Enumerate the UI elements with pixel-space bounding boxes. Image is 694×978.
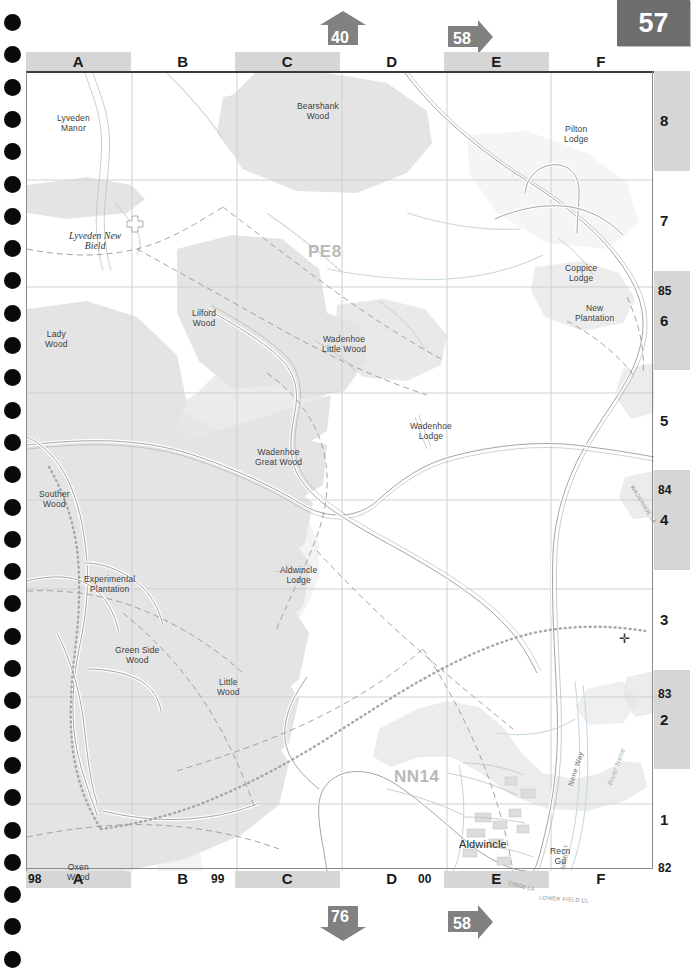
easting-label-99: 99	[211, 872, 224, 886]
northing-label-82: 82	[658, 861, 671, 875]
grid-column-label-f: F	[549, 869, 654, 888]
binding-hole	[4, 46, 21, 63]
binding-hole	[4, 272, 21, 289]
map-label-postcode-1: NN14	[394, 772, 439, 782]
northing-label-84: 84	[658, 483, 671, 497]
grid-column-label-b: B	[131, 52, 236, 71]
map-label-place-13: Green Side Wood	[115, 646, 160, 665]
easting-label-00: 00	[418, 872, 431, 886]
binding-hole	[4, 14, 21, 31]
nav-arrow-up-40[interactable]: 40	[320, 13, 366, 46]
map-label-place-9: Wadenhoe Great Wood	[255, 448, 302, 467]
grid-row-label-1: 1	[653, 769, 690, 869]
grid-row-label-5: 5	[653, 370, 690, 470]
map-label-place-10: Souther Wood	[39, 490, 70, 509]
binding-hole	[4, 466, 21, 483]
nav-arrow-right-58-top[interactable]: 58	[448, 21, 494, 52]
map-label-place-3: Coppice Lodge	[565, 264, 597, 283]
binding-hole	[4, 918, 21, 935]
binding-hole	[4, 402, 21, 419]
binding-hole	[4, 886, 21, 903]
map-label-place-16: Oxen Wood	[67, 863, 90, 882]
map-label-place-14: Little Wood	[217, 678, 240, 697]
map-label-place-2: Pilton Lodge	[564, 125, 588, 144]
binding-hole	[4, 757, 21, 774]
grid-column-label-a: A	[26, 52, 131, 71]
binding-hole	[4, 499, 21, 516]
map-label-place-4: New Plantation	[575, 304, 614, 323]
grid-row-label-2: 2	[653, 670, 690, 770]
map-label-postcode-0: PE8	[308, 247, 342, 257]
map-label-historic-0: Lyveden New Bield	[69, 232, 121, 251]
easting-label-98: 98	[28, 872, 41, 886]
map-label-place-11: Experimental Plantation	[84, 575, 135, 594]
binding-hole	[4, 692, 21, 709]
binding-hole	[4, 369, 21, 386]
map-label-place-12: Aldwincle Lodge	[280, 566, 317, 585]
binding-hole	[4, 176, 21, 193]
binding-hole	[4, 628, 21, 645]
nav-arrow-down-76[interactable]: 76	[320, 906, 366, 941]
map-label-place-0: Lyveden Manor	[57, 114, 90, 133]
binding-hole	[4, 143, 21, 160]
grid-column-label-e: E	[444, 52, 549, 71]
binding-hole	[4, 854, 21, 871]
map-label-place-8: Wadenhoe Lodge	[410, 422, 452, 441]
binding-hole	[4, 305, 21, 322]
binding-hole	[4, 595, 21, 612]
binding-hole	[4, 531, 21, 548]
binding-hole	[4, 337, 21, 354]
nav-arrow-right-58-bottom[interactable]: 58	[448, 906, 494, 937]
map-label-linear-5: LOWER FIELD CL	[539, 893, 590, 906]
map-label-place-6: Lady Wood	[45, 330, 68, 349]
binding-hole	[4, 563, 21, 580]
grid-column-label-f: F	[549, 52, 654, 71]
nav-arrow-label: 58	[453, 915, 471, 933]
binding-hole	[4, 822, 21, 839]
nav-arrow-label: 76	[331, 908, 349, 926]
column-ruler-bottom: ABCDEF989900	[26, 869, 690, 888]
nav-arrow-label: 58	[453, 30, 471, 48]
grid-row-label-3: 3	[653, 570, 690, 670]
map-label-place-1: Bearshank Wood	[297, 102, 339, 121]
binding-hole	[4, 951, 21, 968]
binding-hole	[4, 208, 21, 225]
map-label-place-5: Lilford Wood	[192, 309, 216, 328]
binding-hole	[4, 434, 21, 451]
binding-hole	[4, 789, 21, 806]
grid-column-label-c: C	[235, 52, 340, 71]
binding-hole	[4, 660, 21, 677]
binding-hole	[4, 725, 21, 742]
map-viewport[interactable]: .wood{fill:#e4e4e4;} .wood2{fill:#ececec…	[26, 71, 654, 871]
binding-hole	[4, 79, 21, 96]
page-number-tab: 57	[617, 0, 690, 46]
map-label-place-7: Wadenhoe Little Wood	[322, 335, 366, 354]
nav-arrow-label: 40	[331, 29, 349, 47]
grid-row-label-8: 8	[653, 71, 690, 171]
cross-marker: ✛	[619, 632, 630, 645]
map-border-right	[652, 71, 653, 869]
column-ruler-top: ABCDEF	[26, 52, 690, 71]
map-artwork: .wood{fill:#e4e4e4;} .wood2{fill:#ececec…	[27, 73, 654, 871]
spiral-binding	[0, 0, 28, 978]
map-label-settlement-0: Aldwincle	[459, 840, 507, 850]
map-frame: ABCDEF ABCDEF989900 8765432185848382 .wo…	[26, 52, 690, 888]
binding-hole	[4, 111, 21, 128]
northing-label-83: 83	[658, 687, 671, 701]
grid-row-label-7: 7	[653, 171, 690, 271]
page-number: 57	[638, 8, 668, 39]
grid-column-label-c: C	[235, 869, 340, 888]
northing-label-85: 85	[658, 284, 671, 298]
row-ruler-right: 8765432185848382	[653, 71, 690, 869]
binding-hole	[4, 240, 21, 257]
grid-column-label-d: D	[340, 52, 445, 71]
